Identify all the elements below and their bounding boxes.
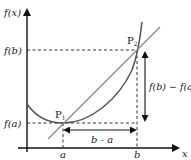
b-tick-label: b xyxy=(134,149,140,160)
y-axis-label: f(x) xyxy=(3,7,21,18)
secant-line xyxy=(48,27,160,139)
diagram-canvas: f(x) x f(b) f(a) a b P1 P2 b - a f(b) − … xyxy=(0,0,191,160)
fa-tick-label: f(a) xyxy=(3,118,22,129)
a-tick-label: a xyxy=(60,149,66,160)
function-curve xyxy=(27,22,142,123)
point-p2-label: P2 xyxy=(127,35,138,47)
b-minus-a-label: b - a xyxy=(91,134,113,145)
x-axis-label: x xyxy=(182,148,188,159)
fb-minus-fa-label: f(b) − f(a) xyxy=(148,81,191,92)
point-p1-label: P1 xyxy=(55,109,66,121)
fb-tick-label: f(b) xyxy=(3,45,22,56)
